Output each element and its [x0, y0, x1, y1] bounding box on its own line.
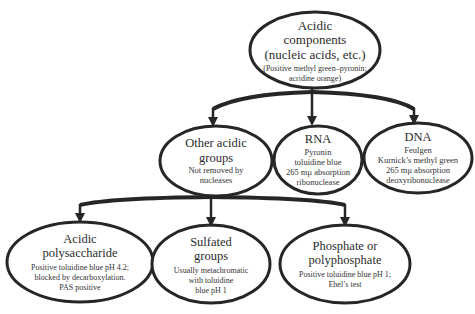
- desc-line: Positive toluidine blue pH 1;: [299, 270, 391, 280]
- desc-line: 265 mμ absorption: [286, 167, 350, 177]
- title-line: groups: [185, 151, 246, 165]
- node-sulfated-groups: Sulfated groups Usually metachromatic wi…: [154, 230, 268, 300]
- desc-line: ribonuclease: [286, 177, 350, 187]
- title-line: (nucleic acids, etc.): [264, 48, 365, 63]
- title-line: DNA: [404, 130, 431, 144]
- desc-line: Ehel’s test: [299, 280, 391, 290]
- node-other-acidic-groups: Other acidic groups Not removed by nucle…: [162, 130, 270, 192]
- desc-line: Feulgen: [378, 145, 458, 155]
- desc-line: Positive toluidine blue pH 4.2;: [31, 263, 129, 273]
- desc-line: 265 mμ absorption: [378, 165, 458, 175]
- node-title: Sulfated groups: [190, 235, 232, 264]
- desc-line: Usually metachromatic: [174, 266, 248, 276]
- desc-line: with toluidine: [174, 276, 248, 286]
- node-phosphate-or-polyphosphate: Phosphate or polyphosphate Positive tolu…: [282, 230, 408, 298]
- title-line: polysaccharide: [43, 246, 118, 260]
- desc-line: (Positive methyl green–pyronin;: [263, 64, 367, 74]
- node-description: Positive toluidine blue pH 4.2; blocked …: [31, 263, 129, 292]
- node-description: Not removed by nucleases: [188, 165, 243, 185]
- title-line: RNA: [305, 132, 331, 146]
- node-title: Other acidic groups: [185, 136, 246, 165]
- desc-line: acridine orange): [263, 74, 367, 84]
- title-line: components: [264, 33, 365, 48]
- node-description: Positive toluidine blue pH 1; Ehel’s tes…: [299, 270, 391, 289]
- desc-line: deoxyribonuclease: [378, 175, 458, 185]
- title-line: Other acidic: [185, 136, 246, 150]
- desc-line: blocked by decarboxylation.: [31, 273, 129, 283]
- desc-line: Not removed by: [188, 165, 243, 175]
- node-description: Usually metachromatic with toluidine blu…: [174, 266, 248, 295]
- desc-line: Pyronin: [286, 147, 350, 157]
- desc-line: blue pH 1: [174, 286, 248, 296]
- title-line: polyphosphate: [309, 253, 382, 267]
- node-description: Pyronin toluidine blue 265 mμ absorption…: [286, 147, 350, 188]
- title-line: groups: [190, 249, 232, 263]
- node-title: Acidic components (nucleic acids, etc.): [264, 19, 365, 64]
- node-dna: DNA Feulgen Kurnick’s methyl green 265 m…: [366, 126, 470, 190]
- title-line: Acidic: [264, 19, 365, 34]
- title-line: Acidic: [43, 232, 118, 246]
- desc-line: PAS positive: [31, 283, 129, 293]
- node-title: Phosphate or polyphosphate: [309, 239, 382, 268]
- node-description: Feulgen Kurnick’s methyl green 265 mμ ab…: [378, 145, 458, 186]
- desc-line: toluidine blue: [286, 157, 350, 167]
- node-title: RNA: [305, 132, 331, 146]
- node-title: Acidic polysaccharide: [43, 232, 118, 261]
- desc-line: nucleases: [188, 175, 243, 185]
- node-description: (Positive methyl green–pyronin; acridine…: [263, 64, 367, 83]
- desc-line: Kurnick’s methyl green: [378, 155, 458, 165]
- node-title: DNA: [404, 130, 431, 144]
- title-line: Sulfated: [190, 235, 232, 249]
- node-rna: RNA Pyronin toluidine blue 265 mμ absorp…: [276, 128, 360, 192]
- node-acidic-polysaccharide: Acidic polysaccharide Positive toluidine…: [10, 226, 150, 298]
- node-acidic-components: Acidic components (nucleic acids, etc.) …: [252, 14, 378, 88]
- title-line: Phosphate or: [309, 239, 382, 253]
